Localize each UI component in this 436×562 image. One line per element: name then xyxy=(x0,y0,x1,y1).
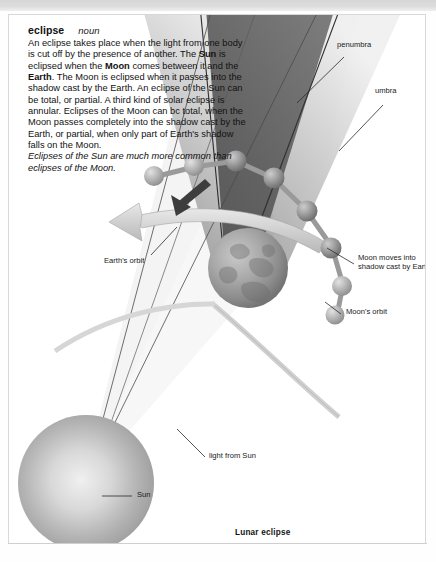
moon-4 xyxy=(264,168,285,189)
dictionary-entry: eclipsenoun An eclipse takes place when … xyxy=(28,24,250,174)
definition-run-5: Earth xyxy=(28,72,52,82)
sun-sphere xyxy=(18,415,154,543)
page-bottom-rule xyxy=(8,543,427,544)
label-earths-orbit: Earth's orbit xyxy=(104,256,144,265)
part-of-speech: noun xyxy=(78,25,99,36)
definition-run-4: comes between it and the xyxy=(130,61,239,71)
definition-run-3: Moon xyxy=(105,61,130,71)
moon-7 xyxy=(332,276,352,296)
definition-note: Eclipses of the Sun are much more common… xyxy=(28,151,250,174)
label-moon-shadow: Moon moves into shadow cast by Earth xyxy=(358,253,425,272)
dictionary-page: penumbra umbra Earth's orbit Moon moves … xyxy=(0,0,436,562)
earths-orbit-arrowhead xyxy=(109,203,142,241)
entry-headline: eclipsenoun xyxy=(28,24,250,37)
headword: eclipse xyxy=(28,24,64,36)
label-penumbra: penumbra xyxy=(337,40,371,49)
moon-6 xyxy=(321,238,342,259)
label-umbra: umbra xyxy=(375,86,397,95)
definition-text: An eclipse takes place when the light fr… xyxy=(28,38,250,151)
definition-run-1: Sun xyxy=(199,49,217,59)
moon-8 xyxy=(326,306,345,325)
definition-run-6: . The Moon is eclipsed when it passes in… xyxy=(28,72,246,150)
scan-band xyxy=(0,0,436,11)
label-moons-orbit: Moon's orbit xyxy=(346,307,387,316)
label-light-from-sun: light from Sun xyxy=(209,451,256,460)
leader-light-from-sun xyxy=(177,429,205,457)
diagram-caption: Lunar eclipse xyxy=(235,528,290,537)
label-sun: Sun xyxy=(137,490,151,499)
moon-5 xyxy=(297,201,318,222)
